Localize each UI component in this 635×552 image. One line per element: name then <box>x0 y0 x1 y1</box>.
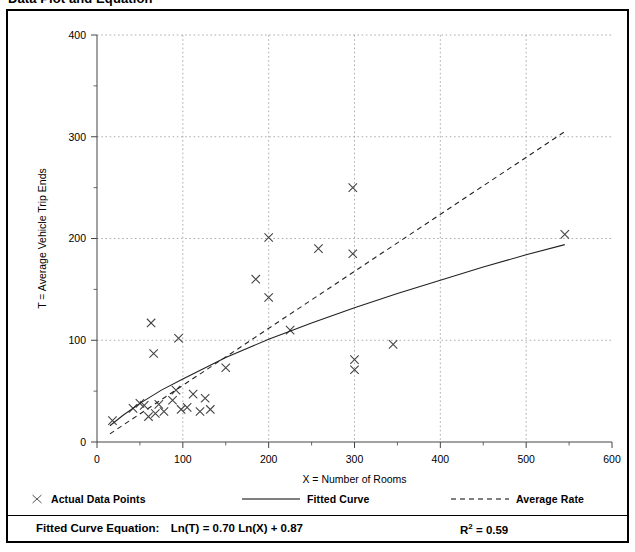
equation-prefix: Fitted Curve Equation: <box>36 522 159 534</box>
rsquared-value: = 0.59 <box>476 524 508 536</box>
legend-label-actual-data-points: Actual Data Points <box>51 493 146 505</box>
data-point-marker <box>206 405 214 413</box>
data-point-marker <box>160 407 168 415</box>
data-point-marker <box>189 390 197 398</box>
data-point-marker <box>183 403 191 411</box>
data-point-marker <box>350 355 358 363</box>
data-point-marker <box>147 319 155 327</box>
legend-label-average-rate: Average Rate <box>516 493 584 505</box>
chart-plot-area: 01002003004005006000100200300400X = Numb… <box>8 11 627 483</box>
x-tick-label: 0 <box>94 453 100 465</box>
x-tick-label: 200 <box>260 453 278 465</box>
data-point-marker <box>252 275 260 283</box>
chart-gridlines <box>97 35 612 442</box>
data-point-marker <box>201 394 209 402</box>
solid-line-icon <box>242 493 300 505</box>
rsquared-statistic: R2 = 0.59 <box>460 522 508 536</box>
y-tick-label: 300 <box>68 131 86 143</box>
rsquared-exponent: 2 <box>468 522 472 531</box>
data-point-marker <box>174 334 182 342</box>
y-axis-title: T = Average Vehicle Trip Ends <box>36 168 48 309</box>
x-tick-label: 600 <box>603 453 621 465</box>
data-point-marker <box>151 409 159 417</box>
data-point-marker <box>561 230 569 238</box>
data-point-marker <box>222 364 230 372</box>
equation-row: Fitted Curve Equation: Ln(T) = 0.70 Ln(X… <box>8 516 627 543</box>
chart-tick-labels: 01002003004005006000100200300400 <box>68 29 620 465</box>
y-tick-label: 100 <box>68 334 86 346</box>
figure-frame: 01002003004005006000100200300400X = Numb… <box>6 9 629 543</box>
y-tick-label: 200 <box>68 232 86 244</box>
page-title: Data Plot and Equation <box>8 0 152 6</box>
fitted-curve-line <box>110 245 565 426</box>
fitted-curve-equation: Fitted Curve Equation: Ln(T) = 0.70 Ln(X… <box>36 522 303 534</box>
y-tick-label: 0 <box>80 436 86 448</box>
legend-item-average-rate: Average Rate <box>451 489 584 509</box>
data-point-marker <box>264 233 272 241</box>
data-point-marker <box>314 244 322 252</box>
data-point-marker <box>177 405 185 413</box>
data-point-marker <box>196 407 204 415</box>
legend-label-fitted-curve: Fitted Curve <box>307 493 369 505</box>
x-tick-label: 300 <box>346 453 364 465</box>
data-point-marker <box>149 349 157 357</box>
chart-legend: Actual Data Points Fitted Curve Average … <box>8 489 627 515</box>
data-point-marker <box>349 183 357 191</box>
x-axis-title: X = Number of Rooms <box>302 473 406 483</box>
scatter-chart: 01002003004005006000100200300400X = Numb… <box>8 11 627 483</box>
data-point-marker <box>144 412 152 420</box>
legend-item-fitted-curve: Fitted Curve <box>242 489 369 509</box>
x-marker-icon <box>30 493 44 505</box>
data-point-marker <box>168 396 176 404</box>
data-point-marker <box>389 340 397 348</box>
legend-item-actual-data-points: Actual Data Points <box>30 489 146 509</box>
x-tick-label: 400 <box>432 453 450 465</box>
data-point-marker <box>172 386 180 394</box>
x-tick-label: 100 <box>174 453 192 465</box>
dashed-line-icon <box>451 493 509 505</box>
equation-formula: Ln(T) = 0.70 Ln(X) + 0.87 <box>171 522 303 534</box>
data-point-marker <box>349 250 357 258</box>
x-tick-label: 500 <box>517 453 535 465</box>
y-tick-label: 400 <box>68 29 86 41</box>
average-rate-line <box>110 132 565 434</box>
